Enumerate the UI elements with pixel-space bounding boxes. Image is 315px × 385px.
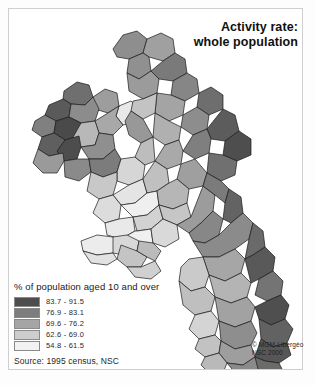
- legend-source: Source: 1995 census, NSC: [14, 356, 194, 366]
- legend-heading: % of population aged 10 and over: [14, 281, 194, 292]
- page-title: Activity rate: whole population: [118, 20, 298, 50]
- title-line-1: Activity rate:: [118, 20, 298, 35]
- legend-swatch-5: [14, 341, 40, 351]
- credit-line-1: © MGM-Libergéo: [252, 341, 303, 349]
- legend-label-4: 62.6 - 69.0: [46, 330, 84, 339]
- legend-swatch-4: [14, 330, 40, 340]
- legend-label-5: 54.8 - 61.5: [46, 341, 84, 350]
- legend-item[interactable]: 83.7 - 91.5: [14, 296, 194, 307]
- legend-item[interactable]: 62.6 - 69.0: [14, 329, 194, 340]
- map-credit: © MGM-Libergéo NSC 2000: [252, 341, 303, 357]
- legend-label-3: 69.6 - 76.2: [46, 319, 84, 328]
- legend-item[interactable]: 54.8 - 61.5: [14, 340, 194, 351]
- title-line-2: whole population: [118, 35, 298, 50]
- legend-swatch-2: [14, 308, 40, 318]
- legend-swatch-1: [14, 297, 40, 307]
- map-legend: % of population aged 10 and over 83.7 - …: [14, 281, 194, 366]
- legend-label-1: 83.7 - 91.5: [46, 297, 84, 306]
- legend-item[interactable]: 76.9 - 83.1: [14, 307, 194, 318]
- legend-item[interactable]: 69.6 - 76.2: [14, 318, 194, 329]
- credit-line-2: NSC 2000: [252, 349, 303, 357]
- legend-label-2: 76.9 - 83.1: [46, 308, 84, 317]
- map-page: Activity rate: whole population % of pop…: [0, 0, 315, 385]
- legend-swatch-3: [14, 319, 40, 329]
